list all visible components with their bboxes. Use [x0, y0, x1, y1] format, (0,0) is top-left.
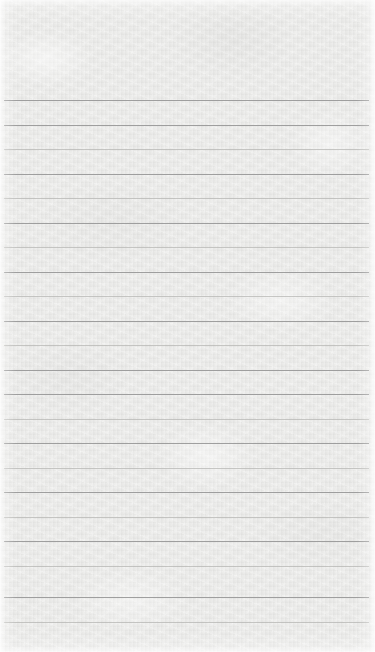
page-bottom-margin: [0, 622, 375, 652]
page-top-margin: [0, 0, 375, 100]
writing-area[interactable]: [4, 100, 369, 622]
notepad-page[interactable]: [0, 0, 375, 652]
